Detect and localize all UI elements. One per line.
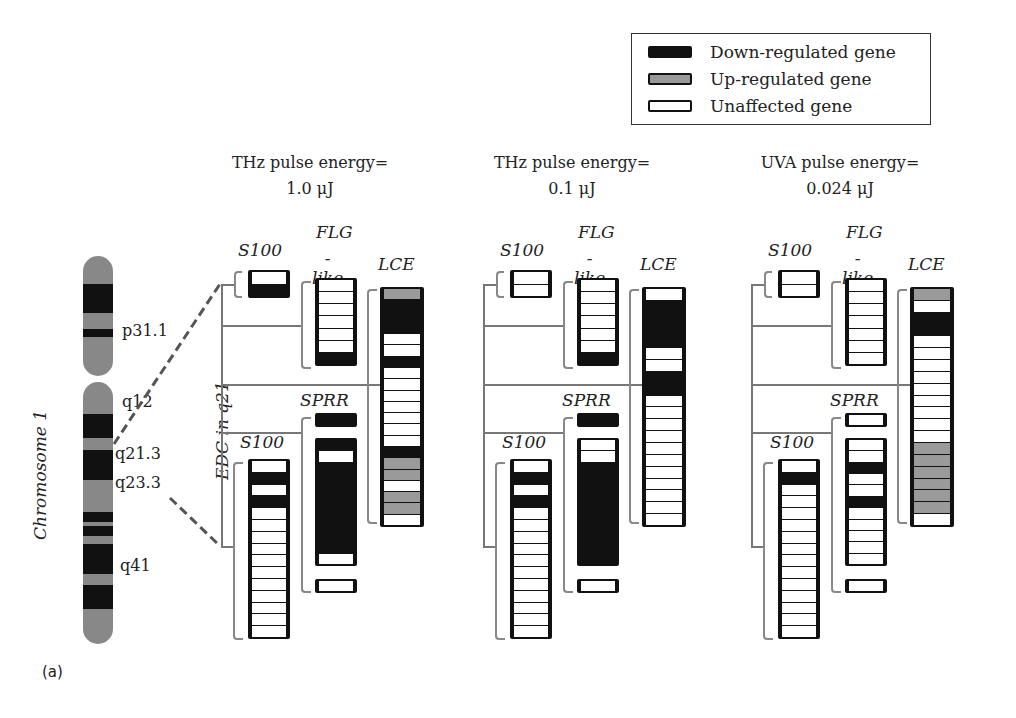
- unaffected-gene: [849, 328, 883, 340]
- flg-label-line1: FLG: [316, 222, 353, 242]
- unaffected-gene: [581, 303, 615, 315]
- bracket: [831, 281, 841, 369]
- s100-top-label: S100: [768, 240, 812, 260]
- bracket: [897, 289, 907, 524]
- flg-like-genes: [577, 278, 619, 366]
- panel-title-line2: 0.1 μJ: [462, 176, 682, 202]
- unaffected-gene: [782, 519, 816, 531]
- unaffected-gene: [849, 484, 883, 495]
- unaffected-gene: [849, 291, 883, 303]
- unaffected-gene: [514, 461, 548, 472]
- unaffected-gene: [384, 480, 420, 491]
- down-regulated-gene: [644, 371, 684, 383]
- down-regulated-gene: [579, 415, 617, 425]
- unaffected-gene: [319, 553, 353, 564]
- unaffected-gene: [646, 347, 682, 359]
- s100-bottom-genes: [248, 459, 290, 639]
- down-regulated-gene: [250, 472, 288, 484]
- unaffected-gene: [514, 602, 548, 614]
- up-regulated-gene: [914, 466, 950, 478]
- bracket: [234, 271, 242, 298]
- unaffected-gene: [384, 390, 420, 401]
- up-regulated-gene: [384, 457, 420, 468]
- unaffected-gene: [849, 541, 883, 552]
- tree-line: [483, 546, 495, 548]
- down-regulated-gene: [644, 335, 684, 347]
- unaffected-gene: [252, 519, 286, 531]
- unaffected-gene: [514, 531, 548, 543]
- down-regulated-gene: [644, 383, 684, 395]
- down-regulated-gene: [847, 496, 885, 507]
- unaffected-gene: [849, 519, 883, 530]
- down-regulated-gene: [579, 507, 617, 518]
- bracket: [233, 462, 243, 640]
- flg-label-line1: FLG: [578, 222, 615, 242]
- s100-top-genes: [510, 270, 552, 298]
- tree-line: [301, 384, 367, 386]
- s100-bottom-label: S100: [240, 432, 284, 452]
- unaffected-gene: [514, 272, 548, 284]
- unaffected-gene: [849, 450, 883, 461]
- up-regulated-gene: [914, 442, 950, 454]
- sprr-bottom-gene: [845, 579, 887, 593]
- down-regulated-gene: [317, 541, 355, 552]
- unaffected-gene: [384, 435, 420, 446]
- unaffected-gene: [252, 554, 286, 566]
- flg-like-genes: [315, 278, 357, 366]
- unaffected-gene: [914, 300, 950, 312]
- unaffected-gene: [252, 272, 286, 284]
- flg-label-line1: FLG: [846, 222, 883, 242]
- unaffected-gene: [252, 566, 286, 578]
- unaffected-gene: [849, 315, 883, 327]
- lce-label: LCE: [378, 254, 415, 274]
- unaffected-gene: [782, 590, 816, 602]
- down-regulated-gene: [382, 356, 422, 367]
- unaffected-gene: [782, 602, 816, 614]
- unaffected-gene: [581, 440, 615, 450]
- down-regulated-gene: [382, 446, 422, 457]
- unaffected-gene: [384, 367, 420, 378]
- sprr-bottom-gene: [577, 579, 619, 593]
- bracket: [495, 462, 505, 640]
- tree-line: [751, 284, 764, 286]
- down-regulated-gene: [579, 473, 617, 484]
- unaffected-gene: [252, 543, 286, 555]
- unaffected-gene: [514, 284, 548, 297]
- unaffected-gene: [646, 501, 682, 513]
- unaffected-gene: [646, 359, 682, 371]
- panel-title-line1: THz pulse energy=: [200, 150, 420, 176]
- down-regulated-gene: [512, 495, 550, 507]
- unaffected-gene: [319, 280, 353, 291]
- sprr-bottom-gene: [315, 579, 357, 593]
- unaffected-gene: [581, 328, 615, 340]
- unaffected-gene: [646, 430, 682, 442]
- sprr-genes: [315, 438, 357, 566]
- unaffected-gene: [252, 484, 286, 496]
- unaffected-gene: [849, 473, 883, 484]
- sprr-genes: [577, 438, 619, 566]
- bracket: [831, 417, 841, 593]
- unaffected-gene: [514, 590, 548, 602]
- unaffected-gene: [849, 352, 883, 364]
- unaffected-gene: [849, 507, 883, 518]
- unaffected-gene: [384, 514, 420, 525]
- down-regulated-gene: [579, 352, 617, 364]
- unaffected-gene: [782, 566, 816, 578]
- unaffected-gene: [319, 450, 353, 461]
- down-regulated-gene: [317, 507, 355, 518]
- unaffected-gene: [319, 303, 353, 315]
- tree-line: [751, 284, 753, 546]
- unaffected-gene: [384, 423, 420, 434]
- unaffected-gene: [914, 383, 950, 395]
- unaffected-gene: [849, 303, 883, 315]
- up-regulated-gene: [914, 478, 950, 490]
- lce-genes: [380, 287, 424, 527]
- unaffected-gene: [914, 359, 950, 371]
- flg-like-genes: [845, 278, 887, 366]
- down-regulated-gene: [912, 324, 952, 336]
- unaffected-gene: [914, 347, 950, 359]
- down-regulated-gene: [579, 484, 617, 495]
- down-regulated-gene: [382, 322, 422, 333]
- bracket: [629, 289, 639, 524]
- bracket: [367, 289, 377, 524]
